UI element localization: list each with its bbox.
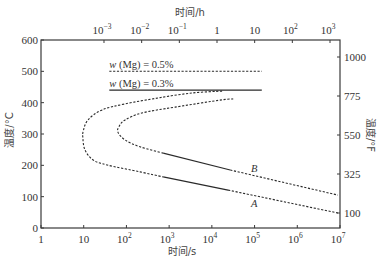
curve-a-segment: [228, 190, 338, 213]
x-tick-label: 102: [117, 231, 132, 245]
y-tick-label: 200: [22, 159, 39, 171]
x-tick-label: 1: [38, 233, 44, 245]
y-tick-label: 100: [22, 191, 39, 203]
chart-canvas: 11010210310410510610710−310−210−11101021…: [0, 0, 382, 266]
curve-b-segment: [230, 170, 338, 195]
top-tick-label: 102: [283, 22, 298, 36]
label-a: A: [250, 198, 258, 209]
label-w-mg-0-5-: w (Mg) = 0.5%: [109, 59, 174, 71]
x-tick-label: 105: [245, 231, 260, 245]
y-tick-label: 400: [22, 97, 39, 109]
label-b: B: [251, 163, 258, 174]
axes: 11010210310410510610710−310−210−11101021…: [22, 22, 367, 245]
y-tick-label: 500: [22, 65, 39, 77]
curve-a-segment: [163, 177, 228, 190]
right-tick-label: 550: [344, 129, 361, 141]
top-tick-label: 103: [321, 22, 336, 36]
y-tick-label: 600: [22, 34, 39, 46]
top-tick-label: 10−3: [92, 22, 111, 36]
right-tick-label: 325: [344, 168, 361, 180]
curve-b-segment: [163, 153, 230, 170]
plot-frame: [41, 40, 340, 228]
label-w-mg-0-3-: w (Mg) = 0.3%: [109, 78, 174, 90]
x-tick-label: 10: [78, 233, 90, 245]
top-tick-label: 1: [214, 24, 220, 36]
curve-b-segment: [118, 99, 234, 153]
annotations: ABw (Mg) = 0.5%w (Mg) = 0.3%: [109, 59, 258, 208]
y-axis-title: 温度/°C: [3, 112, 15, 147]
top-tick-label: 10: [249, 24, 261, 36]
right-tick-label: 1000: [344, 51, 367, 63]
x-tick-label: 106: [288, 231, 303, 245]
x-tick-label: 103: [160, 231, 175, 245]
x-tick-label: 107: [331, 231, 346, 245]
x-axis-title: 时间/s: [168, 245, 197, 257]
top-axis-title: 时间/h: [175, 6, 205, 18]
curve-a-segment: [83, 91, 222, 177]
y-tick-label: 0: [33, 222, 39, 234]
right-tick-label: 775: [344, 90, 361, 102]
top-tick-label: 10−1: [168, 22, 187, 36]
ttt-chart: 11010210310410510610710−310−210−11101021…: [0, 0, 382, 266]
right-tick-label: 100: [344, 207, 361, 219]
x-tick-label: 104: [202, 231, 217, 245]
top-tick-label: 10−2: [130, 22, 149, 36]
curves: [83, 71, 338, 213]
right-axis-title: 温度/°F: [365, 118, 377, 152]
y-tick-label: 300: [22, 128, 39, 140]
